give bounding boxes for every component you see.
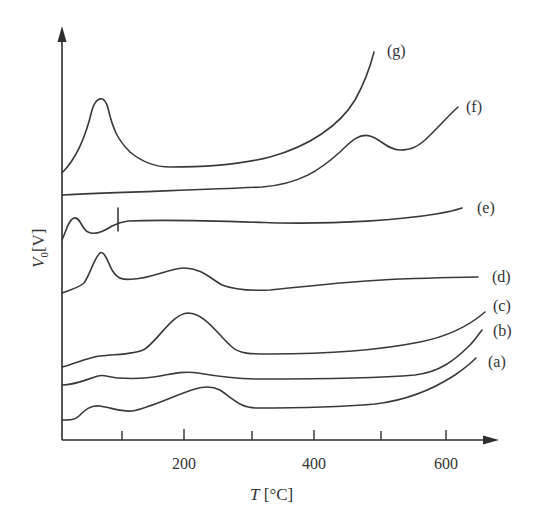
x-axis-title-unit: [°C] bbox=[259, 485, 293, 504]
curve-f bbox=[62, 107, 458, 195]
x-tick-label-200: 200 bbox=[172, 455, 196, 472]
y-axis-title-unit: [V] bbox=[29, 229, 48, 253]
svg-text:V0[V]: V0[V] bbox=[29, 229, 50, 269]
x-tick-label-400: 400 bbox=[302, 455, 326, 472]
chart-figure: 200 400 600 T [°C] V0[V] (g) (f) (e) (d)… bbox=[0, 0, 533, 526]
curve-c bbox=[62, 312, 485, 367]
y-axis-arrow-icon bbox=[58, 26, 67, 42]
y-axis-title: V0[V] bbox=[29, 229, 50, 269]
curve-label-b: (b) bbox=[493, 322, 512, 340]
x-axis-arrow-icon bbox=[483, 436, 499, 445]
curve-e bbox=[62, 208, 462, 240]
curve-a bbox=[62, 358, 476, 420]
curve-label-c: (c) bbox=[493, 297, 511, 315]
curve-d bbox=[62, 253, 478, 293]
curve-label-f: (f) bbox=[466, 98, 482, 116]
curve-label-d: (d) bbox=[492, 268, 511, 286]
x-ticks bbox=[122, 429, 446, 440]
curve-label-a: (a) bbox=[488, 353, 506, 371]
curve-label-e: (e) bbox=[477, 199, 495, 217]
curve-label-g: (g) bbox=[387, 42, 406, 60]
curve-b bbox=[62, 330, 482, 385]
x-tick-label-600: 600 bbox=[434, 455, 458, 472]
x-axis-title: T [°C] bbox=[250, 485, 293, 504]
curve-g bbox=[62, 52, 374, 173]
